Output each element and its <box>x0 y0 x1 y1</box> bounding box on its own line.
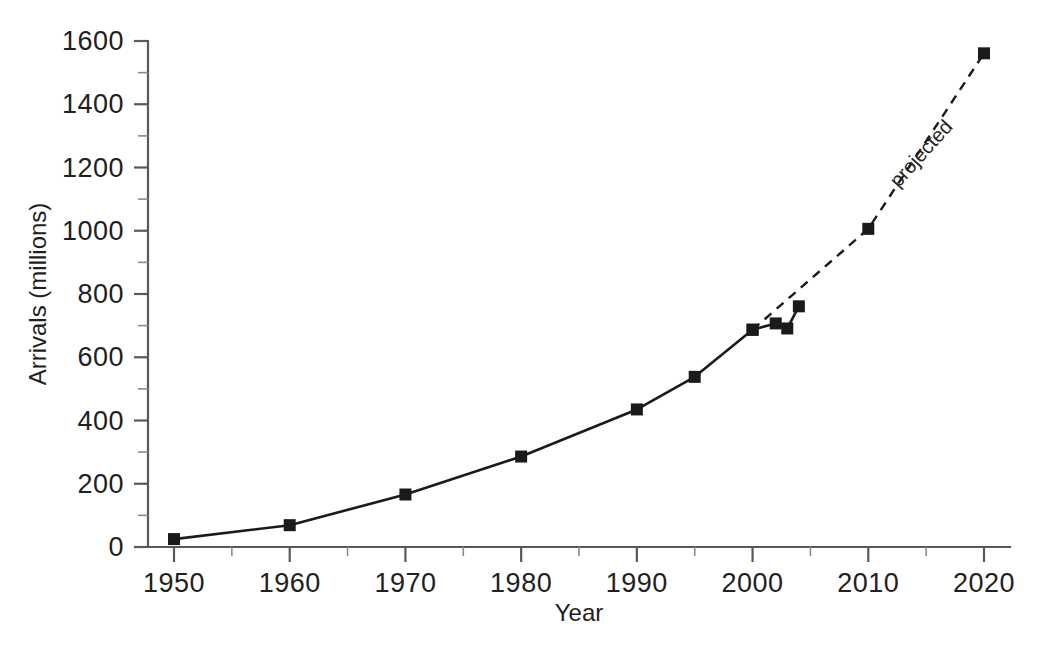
data-point-marker <box>862 223 874 235</box>
data-point-marker <box>399 489 411 501</box>
x-tick-label: 1960 <box>259 568 321 598</box>
data-point-marker <box>515 451 527 463</box>
data-point-marker <box>689 371 701 383</box>
y-tick-label: 1600 <box>62 26 124 56</box>
data-marker-group <box>168 47 990 545</box>
y-axis-major-ticks <box>134 41 148 547</box>
data-point-marker <box>747 324 759 336</box>
x-axis: 19501960197019801990200020102020 <box>143 547 1015 598</box>
data-point-marker <box>770 317 782 329</box>
x-tick-label: 2020 <box>953 568 1015 598</box>
chart-annotations: projected <box>885 115 956 191</box>
chart-figure: 02004006008001000120014001600 1950196019… <box>0 0 1046 652</box>
x-tick-label: 2010 <box>837 568 899 598</box>
x-tick-label: 2000 <box>722 568 784 598</box>
y-axis-tick-labels: 02004006008001000120014001600 <box>62 26 124 562</box>
data-series-group <box>174 53 984 539</box>
data-point-marker <box>781 322 793 334</box>
data-point-marker <box>168 533 180 545</box>
y-tick-label: 1200 <box>62 153 124 183</box>
x-tick-label: 1970 <box>374 568 436 598</box>
x-axis-minor-ticks <box>232 547 926 556</box>
y-tick-label: 600 <box>77 342 124 372</box>
x-axis-tick-labels: 19501960197019801990200020102020 <box>143 568 1015 598</box>
x-tick-label: 1980 <box>490 568 552 598</box>
series-line-actual <box>174 306 799 539</box>
data-point-marker <box>631 403 643 415</box>
data-point-marker <box>978 47 990 59</box>
y-axis-title: Arrivals (millions) <box>24 203 51 386</box>
series-line-projected <box>753 53 984 329</box>
y-tick-label: 1400 <box>62 89 124 119</box>
line-chart-canvas: 02004006008001000120014001600 1950196019… <box>0 0 1046 652</box>
y-tick-label: 400 <box>77 406 124 436</box>
x-tick-label: 1990 <box>606 568 668 598</box>
y-tick-label: 0 <box>108 532 124 562</box>
y-tick-label: 800 <box>77 279 124 309</box>
x-tick-label: 1950 <box>143 568 205 598</box>
y-tick-label: 1000 <box>62 216 124 246</box>
y-axis: 02004006008001000120014001600 <box>62 26 148 562</box>
y-tick-label: 200 <box>77 469 124 499</box>
x-axis-title: Year <box>555 599 604 626</box>
annotation-projected-label: projected <box>885 115 956 191</box>
data-point-marker <box>284 519 296 531</box>
data-point-marker <box>793 300 805 312</box>
